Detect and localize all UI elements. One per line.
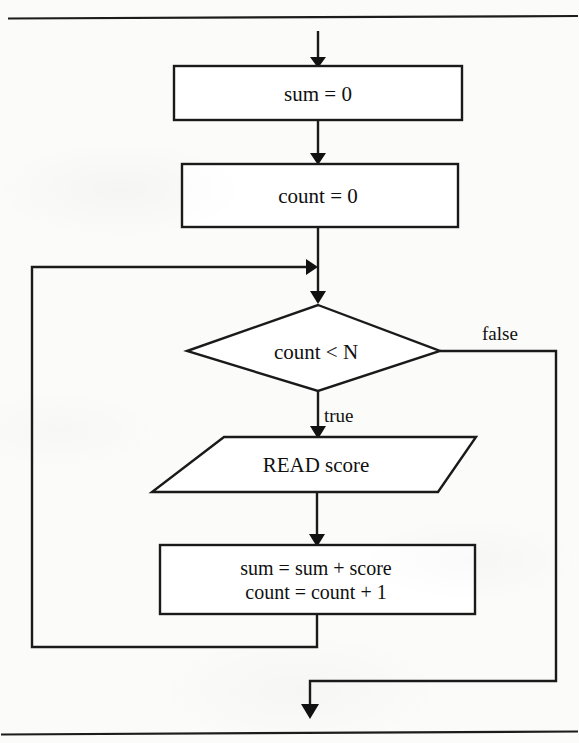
node-init-count[interactable]: count = 0 [182,164,458,227]
accumulate-box [160,545,475,614]
connector-sum-to-count [310,120,326,165]
node-init-sum[interactable]: sum = 0 [174,66,462,120]
count-to-decision-arrowhead [310,291,326,304]
true-branch-label: true [324,405,354,426]
bottom-horizontal-rule [1,732,578,735]
false-branch-arrowhead [301,704,319,719]
init-sum-label: sum = 0 [284,82,352,106]
node-accumulate[interactable]: sum = sum + score count = count + 1 [160,545,475,614]
entry-arrow [310,31,326,68]
accumulate-label-line1: sum = sum + score [240,557,392,579]
node-decision[interactable]: count < N [187,305,440,391]
loop-back-arrowhead [306,259,318,275]
top-horizontal-rule [8,16,578,19]
false-branch-label: false [482,323,518,344]
node-read-score[interactable]: READ score [152,437,476,492]
accumulate-label-line2: count = count + 1 [245,581,386,603]
decision-label: count < N [274,340,358,364]
flowchart-canvas: sum = 0 count = 0 count < N false true [0,0,579,743]
init-count-label: count = 0 [278,184,358,208]
read-score-label: READ score [263,453,370,477]
connector-read-to-accumulate [309,492,325,547]
